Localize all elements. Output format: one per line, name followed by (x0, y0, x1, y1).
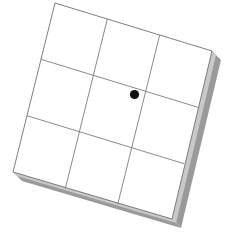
scene-canvas: Rotated 3x3 grid tile with marker dot (0, 0, 232, 234)
grid-tile-illustration: Rotated 3x3 grid tile with marker dot (0, 0, 232, 234)
marker-dot[interactable] (130, 90, 139, 99)
